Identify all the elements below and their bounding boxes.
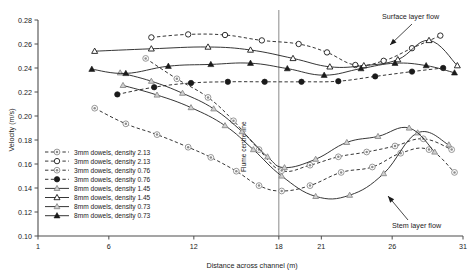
legend-label: 3mm dowels, density 2.13 <box>74 158 151 166</box>
data-marker <box>409 69 414 74</box>
data-marker <box>324 50 329 55</box>
legend-label: 3mm dowels, density 2.13 <box>74 149 151 157</box>
velocity-distance-line-chart: 0.100.120.140.160.180.200.220.240.260.28… <box>0 0 475 274</box>
data-marker <box>56 151 59 154</box>
data-marker <box>115 92 120 97</box>
data-marker <box>222 32 227 37</box>
y-axis-label: Velocity (m/s) <box>7 108 16 151</box>
data-marker <box>93 107 96 110</box>
data-marker <box>340 171 343 174</box>
data-marker <box>259 38 264 43</box>
data-marker <box>450 148 453 151</box>
chart-figure: 0.100.120.140.160.180.200.220.240.260.28… <box>0 0 475 274</box>
y-tick-label: 0.10 <box>18 232 32 241</box>
legend-label: 8mm dowels, density 0.73 <box>74 212 151 220</box>
x-tick-label: 26 <box>388 242 396 251</box>
data-marker <box>394 145 397 148</box>
y-tick-label: 0.16 <box>18 160 32 169</box>
data-marker <box>54 158 59 163</box>
legend-label: 8mm dowels, density 1.45 <box>74 185 151 193</box>
x-tick-label: 21 <box>317 242 325 251</box>
legend-label: 3mm dowels, density 0.76 <box>74 176 151 184</box>
data-marker <box>336 79 341 84</box>
x-tick-label: 18 <box>275 242 283 251</box>
y-tick-label: 0.26 <box>18 40 32 49</box>
data-marker <box>207 96 210 99</box>
x-tick-label: 1 <box>36 242 40 251</box>
data-marker <box>54 177 59 182</box>
x-axis-label: Distance across channel (m) <box>206 261 297 270</box>
data-marker <box>185 32 190 37</box>
y-tick-label: 0.24 <box>18 64 32 73</box>
legend-label: 3mm dowels, density 0.76 <box>74 167 151 175</box>
data-marker <box>235 170 238 173</box>
y-tick-label: 0.20 <box>18 112 32 121</box>
data-marker <box>151 85 156 90</box>
data-marker <box>372 74 377 79</box>
data-marker <box>210 156 213 159</box>
y-tick-label: 0.28 <box>18 16 32 25</box>
data-marker <box>337 156 340 159</box>
data-marker <box>453 171 456 174</box>
data-marker <box>309 164 312 167</box>
data-marker <box>365 151 368 154</box>
y-tick-label: 0.22 <box>18 88 32 97</box>
y-tick-label: 0.18 <box>18 136 32 145</box>
data-marker <box>371 166 374 169</box>
data-marker <box>296 41 301 46</box>
y-tick-label: 0.12 <box>18 208 32 217</box>
data-marker <box>125 123 128 126</box>
data-marker <box>187 146 190 149</box>
x-tick-label: 6 <box>107 242 111 251</box>
data-marker <box>438 33 443 38</box>
x-tick-label: 31 <box>459 242 467 251</box>
data-marker <box>176 78 179 81</box>
data-marker <box>232 120 235 123</box>
surface-layer-flow-label: Surface layer flow <box>382 12 440 21</box>
data-marker <box>309 184 312 187</box>
data-marker <box>144 57 147 60</box>
data-marker <box>280 190 283 193</box>
data-marker <box>56 169 59 172</box>
data-marker <box>428 148 431 151</box>
legend-label: 8mm dowels, density 0.73 <box>74 203 151 211</box>
legend-label: 8mm dowels, density 1.45 <box>74 194 151 202</box>
data-marker <box>262 79 267 84</box>
stem-layer-flow-label: Stem layer flow <box>392 221 442 230</box>
data-marker <box>225 79 230 84</box>
data-marker <box>149 35 154 40</box>
y-tick-label: 0.14 <box>18 184 32 193</box>
data-marker <box>156 133 159 136</box>
data-marker <box>258 184 261 187</box>
x-tick-label: 12 <box>190 242 198 251</box>
data-marker <box>188 80 193 85</box>
chart-background <box>0 0 475 274</box>
data-marker <box>299 79 304 84</box>
